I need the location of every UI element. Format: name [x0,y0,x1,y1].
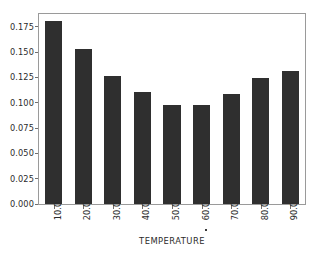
bar-slot [252,14,269,204]
bar-slot [75,14,92,204]
bar [104,76,121,204]
x-tick-label: 30.0 [113,202,121,221]
bar-slot [282,14,299,204]
bar-slot [163,14,180,204]
x-tick-label: 80.0 [261,202,269,221]
bar-slot [104,14,121,204]
x-axis-title: TEMPERATURE [38,237,306,246]
bar [75,49,92,204]
x-tick-label: 50.0 [172,202,180,221]
x-tick-label: 10.0 [54,202,62,221]
x-tick-artifact-dot [205,229,207,231]
bar-slot [134,14,151,204]
bar [45,21,62,204]
x-tick-label: 70.0 [231,202,239,221]
bar-slot [223,14,240,204]
bar-slot [193,14,210,204]
bar [282,71,299,204]
bar-series [39,14,305,204]
x-tick-label: 60.0 [202,202,210,221]
bar-chart-figure: 0.0000.0250.0500.0750.1000.1250.1500.175… [0,0,316,257]
bar [193,105,210,204]
bar [223,94,240,204]
bar [134,92,151,204]
y-axis: 0.0000.0250.0500.0750.1000.1250.1500.175 [0,13,38,205]
x-tick-label: 40.0 [142,202,150,221]
bar [252,78,269,204]
x-tick-label: 20.0 [83,202,91,221]
bar [163,105,180,204]
x-tick-label: 90.0 [290,202,298,221]
bar-slot [45,14,62,204]
